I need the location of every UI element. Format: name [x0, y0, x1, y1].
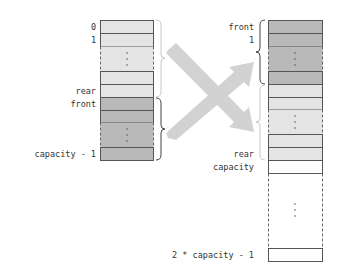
label-index-0: 0 — [91, 22, 96, 32]
label-index-1: 1 — [249, 35, 254, 45]
ellipsis-dot — [294, 52, 296, 54]
ellipsis-dot — [294, 127, 296, 129]
right-cell-last — [269, 249, 323, 262]
left-cell-1 — [101, 34, 154, 47]
ellipsis-dot — [294, 58, 296, 60]
right-cell — [269, 135, 323, 148]
ellipsis-dot — [294, 209, 296, 211]
ellipsis-dot — [126, 140, 128, 142]
ellipsis-dot — [126, 64, 128, 66]
label-2-capacity-minus-1: 2 * capacity - 1 — [172, 250, 254, 260]
left-cell — [101, 111, 154, 123]
left-brace-dark — [156, 98, 165, 160]
label-index-1: 1 — [91, 35, 96, 45]
right-cell — [269, 98, 323, 110]
left-cell — [101, 72, 154, 85]
ellipsis-dot — [126, 128, 128, 130]
label-capacity-minus-1: capacity - 1 — [35, 149, 96, 159]
right-cell-capacity — [269, 161, 323, 174]
right-brace-dark — [256, 20, 265, 84]
ellipsis-dot — [126, 134, 128, 136]
ellipsis-dot — [294, 121, 296, 123]
left-cell-front — [101, 98, 154, 111]
right-cell — [269, 72, 323, 85]
ellipsis-dot — [294, 115, 296, 117]
left-cell-last — [101, 148, 154, 161]
left-cell-rear — [101, 85, 154, 98]
left-array: 0 1 rear front capacity - 1 — [35, 20, 165, 161]
label-front: front — [228, 22, 254, 32]
ellipsis-dot — [294, 203, 296, 205]
label-rear: rear — [76, 86, 96, 96]
label-front: front — [70, 99, 96, 109]
ellipsis-dot — [294, 64, 296, 66]
right-cell — [269, 85, 323, 98]
array-resize-diagram: 0 1 rear front capacity - 1 — [0, 0, 342, 276]
left-brace-light — [156, 20, 165, 97]
arrow-down-right — [166, 43, 254, 132]
ellipsis-dot — [126, 52, 128, 54]
right-cell-front — [269, 21, 323, 34]
right-brace-light — [256, 85, 265, 160]
left-cell-0 — [101, 21, 154, 34]
label-capacity: capacity — [213, 162, 254, 172]
right-cell-1 — [269, 34, 323, 47]
right-cell-rear — [269, 148, 323, 161]
label-rear: rear — [234, 149, 254, 159]
right-array: front 1 rear capacity 2 * capacity - 1 — [172, 20, 322, 262]
ellipsis-dot — [294, 215, 296, 217]
ellipsis-dot — [126, 58, 128, 60]
